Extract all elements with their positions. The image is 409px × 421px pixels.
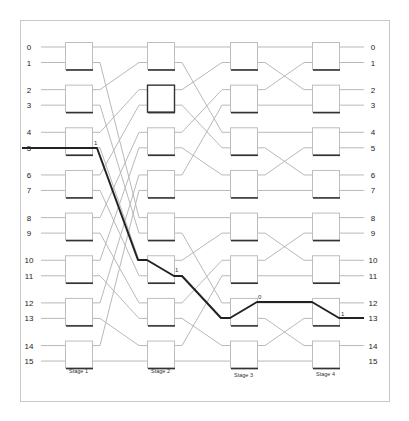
switch-box — [148, 213, 176, 241]
switch-box — [148, 43, 176, 71]
input-label: 13 — [25, 314, 34, 323]
input-label: 11 — [25, 272, 34, 281]
input-label: 15 — [25, 357, 34, 366]
output-label: 2 — [371, 86, 376, 95]
switch-box — [66, 256, 94, 284]
input-label: 5 — [27, 144, 32, 153]
switch-box — [313, 341, 341, 369]
switch-box — [66, 170, 94, 198]
switch-box — [66, 128, 94, 156]
input-label: 4 — [27, 128, 32, 137]
output-label: 12 — [369, 299, 378, 308]
input-label: 8 — [27, 214, 32, 223]
input-label: 3 — [27, 101, 32, 110]
switch-box — [231, 128, 259, 156]
switch-box — [313, 213, 341, 241]
switch-box — [313, 256, 341, 284]
input-label: 9 — [27, 229, 32, 238]
switch-box — [313, 298, 341, 326]
switch-box — [148, 170, 176, 198]
output-label: 9 — [371, 229, 376, 238]
switch-box — [148, 128, 176, 156]
output-label: 7 — [371, 186, 376, 195]
switch-box — [313, 128, 341, 156]
switch-box — [66, 298, 94, 326]
switch-box — [231, 256, 259, 284]
stage-label: Stage 4 — [316, 371, 335, 377]
input-label: 6 — [27, 171, 32, 180]
output-label: 6 — [371, 171, 376, 180]
output-label: 15 — [369, 357, 378, 366]
output-label: 5 — [371, 144, 376, 153]
switch-box — [313, 43, 341, 71]
output-label: 10 — [369, 256, 378, 265]
switch-box — [231, 85, 259, 113]
switch-box — [66, 85, 94, 113]
input-label: 14 — [25, 342, 34, 351]
input-label: 0 — [27, 43, 32, 52]
switch-box — [313, 85, 341, 113]
input-label: 2 — [27, 86, 32, 95]
switch-box — [231, 43, 259, 71]
output-label: 3 — [371, 101, 376, 110]
switch-box — [231, 298, 259, 326]
output-label: 11 — [369, 272, 378, 281]
switch-box — [231, 213, 259, 241]
output-label: 13 — [369, 314, 378, 323]
switch-box — [66, 341, 94, 369]
stage-label: Stage 3 — [234, 372, 253, 378]
switch-box — [148, 85, 176, 113]
input-label: 1 — [27, 59, 32, 68]
stage-label: Stage 1 — [69, 368, 88, 374]
input-label: 12 — [25, 299, 34, 308]
output-label: 0 — [371, 43, 376, 52]
switch-box — [313, 170, 341, 198]
stage-label: Stage 2 — [151, 368, 170, 374]
switch-box — [231, 170, 259, 198]
output-label: 8 — [371, 214, 376, 223]
switch-box — [231, 341, 259, 369]
network-diagram: 0123456789101112131415 01234567891011121… — [0, 0, 409, 421]
output-label: 14 — [369, 342, 378, 351]
input-label: 10 — [25, 256, 34, 265]
switch-box — [148, 341, 176, 369]
switch-box — [66, 213, 94, 241]
input-label: 7 — [27, 186, 32, 195]
switch-box — [148, 298, 176, 326]
switch-box — [66, 43, 94, 71]
output-label: 1 — [371, 59, 376, 68]
output-label: 4 — [371, 128, 376, 137]
